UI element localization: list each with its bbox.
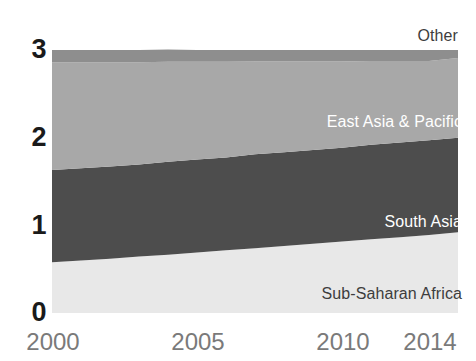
x-axis-tick-2014: 2014	[385, 330, 475, 354]
chart-plot-area	[0, 0, 476, 361]
series-label-other: Other	[417, 28, 458, 44]
series-label-south-asia: South Asia	[385, 214, 463, 230]
series-label-sub-saharan-africa: Sub-Saharan Africa	[321, 286, 462, 302]
stacked-area-chart: 3 2 1 0 2000 2005 2010 2014 Other East A…	[0, 0, 476, 361]
y-axis-tick-0: 0	[12, 299, 46, 326]
series-label-east-asia-pacific: East Asia & Pacific	[327, 114, 462, 130]
y-axis-tick-2: 2	[12, 124, 46, 151]
y-axis-tick-3: 3	[12, 36, 46, 63]
x-axis-tick-2005: 2005	[153, 330, 243, 354]
x-axis-tick-2010: 2010	[298, 330, 388, 354]
area-series-other	[52, 50, 458, 63]
area-series-group	[52, 50, 458, 313]
y-axis-tick-1: 1	[12, 212, 46, 239]
x-axis-tick-2000: 2000	[8, 330, 98, 354]
